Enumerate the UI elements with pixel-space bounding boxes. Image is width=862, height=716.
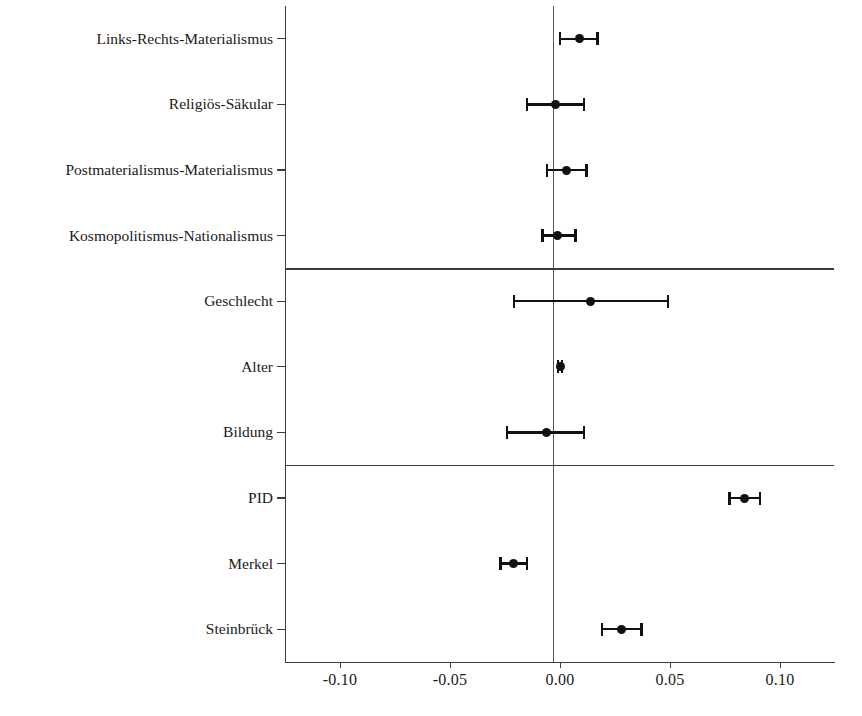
y-tick	[277, 629, 285, 630]
point-estimate-marker	[509, 559, 518, 568]
ci-cap-upper	[526, 557, 529, 570]
ci-cap-lower	[499, 557, 502, 570]
x-tick	[450, 662, 451, 668]
y-axis-label: Bildung	[0, 423, 273, 441]
y-axis-label: Merkel	[0, 555, 273, 573]
y-tick	[277, 235, 285, 236]
y-tick	[277, 38, 285, 39]
x-tick-label: 0.10	[740, 670, 820, 690]
y-axis-label: Steinbrück	[0, 620, 273, 638]
point-estimate-marker	[617, 625, 626, 634]
y-axis-label: Kosmopolitismus-Nationalismus	[0, 227, 273, 245]
ci-cap-lower	[559, 32, 562, 45]
ci-cap-upper	[640, 623, 643, 636]
y-axis-line	[285, 6, 286, 662]
point-estimate-marker	[575, 34, 584, 43]
y-tick	[277, 497, 285, 498]
point-estimate-marker	[556, 362, 565, 371]
x-tick	[560, 662, 561, 668]
ci-cap-lower	[541, 229, 544, 242]
ci-cap-lower	[513, 295, 516, 308]
ci-cap-lower	[601, 623, 604, 636]
x-tick	[340, 662, 341, 668]
ci-cap-upper	[759, 492, 762, 505]
point-estimate-marker	[542, 428, 551, 437]
ci-cap-lower	[526, 98, 529, 111]
ci-cap-upper	[583, 426, 586, 439]
y-tick	[277, 169, 285, 170]
ci-cap-upper	[596, 32, 599, 45]
point-estimate-marker	[562, 166, 571, 175]
point-estimate-marker	[586, 297, 595, 306]
y-tick	[277, 366, 285, 367]
ci-cap-lower	[546, 164, 549, 177]
group-separator-line	[285, 465, 834, 466]
y-axis-label: PID	[0, 489, 273, 507]
x-tick-label: -0.10	[300, 670, 380, 690]
ci-cap-upper	[667, 295, 670, 308]
y-axis-label: Postmaterialismus-Materialismus	[0, 161, 273, 179]
y-axis-label: Alter	[0, 358, 273, 376]
group-separator-line	[285, 268, 834, 269]
ci-cap-upper	[583, 98, 586, 111]
ci-cap-lower	[506, 426, 509, 439]
y-tick	[277, 432, 285, 433]
y-axis-label: Geschlecht	[0, 292, 273, 310]
coefficient-plot: Links-Rechts-MaterialismusReligiös-Säkul…	[0, 0, 862, 716]
y-axis-label: Religiös-Säkular	[0, 95, 273, 113]
x-tick	[670, 662, 671, 668]
x-tick-label: 0.00	[520, 670, 600, 690]
ci-cap-upper	[574, 229, 577, 242]
point-estimate-marker	[551, 100, 560, 109]
ci-cap-upper	[585, 164, 588, 177]
point-estimate-marker	[553, 231, 562, 240]
y-tick	[277, 104, 285, 105]
x-tick	[780, 662, 781, 668]
ci-cap-lower	[728, 492, 731, 505]
x-tick-label: 0.05	[630, 670, 710, 690]
x-tick-label: -0.05	[410, 670, 490, 690]
y-tick	[277, 563, 285, 564]
y-axis-label: Links-Rechts-Materialismus	[0, 30, 273, 48]
y-tick	[277, 301, 285, 302]
point-estimate-marker	[740, 494, 749, 503]
